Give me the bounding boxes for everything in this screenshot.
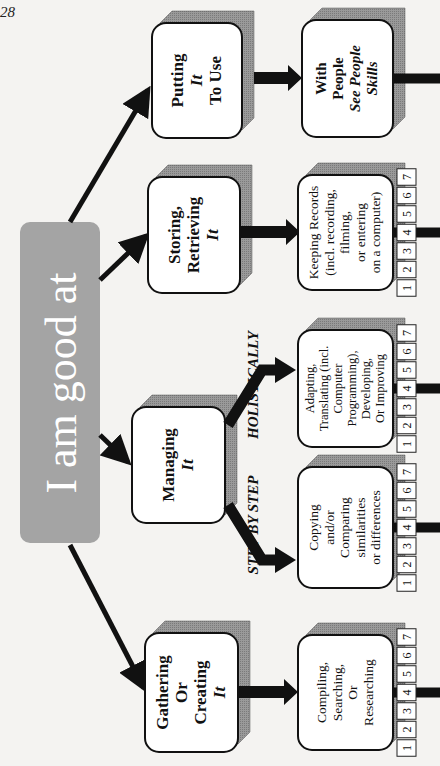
svg-text:It: It xyxy=(210,686,229,700)
arrow-putting-to-people xyxy=(254,65,302,91)
svg-text:Programming),: Programming), xyxy=(345,350,359,426)
svg-text:4: 4 xyxy=(400,230,414,236)
arrow-to-managing xyxy=(100,435,128,462)
rating-cell-4[interactable]: 4 xyxy=(397,224,416,241)
arrow-to-putting xyxy=(70,90,148,222)
svg-text:and/or: and/or xyxy=(322,510,337,545)
rating-cell-3[interactable]: 3 xyxy=(397,243,416,260)
category-box-gathering: GatheringOrCreatingIt xyxy=(145,621,250,752)
rating-cell-5[interactable]: 5 xyxy=(397,362,416,379)
category-box-storing: Storing,RetrievingIt xyxy=(148,165,252,293)
svg-text:4: 4 xyxy=(400,386,414,392)
rating-cell-5[interactable]: 5 xyxy=(397,666,416,683)
arrow-to-gathering xyxy=(70,545,144,688)
svg-text:6: 6 xyxy=(400,193,414,199)
skill-box-adapting: Adapting,Translating (incl.ComputerProgr… xyxy=(298,318,440,447)
svg-text:6: 6 xyxy=(400,653,414,659)
svg-text:1: 1 xyxy=(400,441,414,447)
svg-text:Putting: Putting xyxy=(168,53,187,107)
svg-text:Gathering: Gathering xyxy=(153,655,172,730)
svg-text:similarities: similarities xyxy=(353,498,368,558)
svg-text:Copying: Copying xyxy=(306,504,321,551)
svg-text:I am good at: I am good at xyxy=(37,272,86,493)
skill-box-copying: Copyingand/orComparingsimilaritiesor dif… xyxy=(298,455,440,588)
rating-cell-7[interactable]: 7 xyxy=(397,629,416,646)
rating-cell-6[interactable]: 6 xyxy=(397,647,416,664)
svg-text:Compiling,: Compiling, xyxy=(314,662,329,723)
svg-text:2: 2 xyxy=(400,562,414,568)
svg-text:Comparing: Comparing xyxy=(337,497,352,558)
rating-cell-3[interactable]: 3 xyxy=(397,703,416,720)
svg-text:Or: Or xyxy=(172,682,191,703)
category-box-putting: PuttingItTo Use xyxy=(152,11,254,138)
central-box: I am good at xyxy=(20,222,100,543)
rating-cell-7[interactable]: 7 xyxy=(397,464,416,481)
svg-text:3: 3 xyxy=(400,708,414,714)
rating-cell-1[interactable]: 1 xyxy=(397,280,416,297)
rating-scale-keeping[interactable]: 1234567 xyxy=(397,169,416,297)
svg-text:Creating: Creating xyxy=(191,660,210,724)
svg-text:Storing,: Storing, xyxy=(165,206,184,264)
svg-text:6: 6 xyxy=(400,349,414,355)
svg-text:Or: Or xyxy=(345,685,360,700)
svg-text:It: It xyxy=(203,228,222,242)
rating-cell-1[interactable]: 1 xyxy=(397,436,416,453)
rating-cell-4[interactable]: 4 xyxy=(397,519,416,536)
rating-cell-1[interactable]: 1 xyxy=(397,740,416,757)
svg-text:Computer: Computer xyxy=(331,363,345,414)
svg-text:4: 4 xyxy=(400,690,414,696)
rating-cell-2[interactable]: 2 xyxy=(397,556,416,573)
rating-cell-5[interactable]: 5 xyxy=(397,206,416,223)
rating-cell-7[interactable]: 7 xyxy=(397,169,416,186)
rating-scale-adapting[interactable]: 1234567 xyxy=(397,325,416,453)
rating-cell-6[interactable]: 6 xyxy=(397,343,416,360)
svg-text:or entering: or entering xyxy=(353,203,368,262)
rating-cell-2[interactable]: 2 xyxy=(397,417,416,434)
svg-text:Managing: Managing xyxy=(159,428,178,502)
rating-cell-4[interactable]: 4 xyxy=(397,380,416,397)
svg-text:or differences: or differences xyxy=(368,490,383,564)
rating-cell-2[interactable]: 2 xyxy=(397,721,416,738)
svg-text:5: 5 xyxy=(400,211,414,217)
svg-text:7: 7 xyxy=(400,469,414,475)
svg-text:People: People xyxy=(330,57,346,100)
svg-text:5: 5 xyxy=(400,506,414,512)
rating-cell-3[interactable]: 3 xyxy=(397,538,416,555)
rating-scale-copying[interactable]: 1234567 xyxy=(397,464,416,592)
svg-text:Retrieving: Retrieving xyxy=(184,196,203,273)
svg-text:filming,: filming, xyxy=(337,211,352,254)
rating-cell-6[interactable]: 6 xyxy=(397,187,416,204)
rating-cell-4[interactable]: 4 xyxy=(397,684,416,701)
svg-text:Skills: Skills xyxy=(364,61,380,95)
svg-text:1: 1 xyxy=(400,580,414,586)
arrow-to-storing xyxy=(100,236,146,280)
svg-text:It: It xyxy=(187,74,206,88)
svg-text:Translating (incl.: Translating (incl. xyxy=(317,346,331,432)
svg-text:3: 3 xyxy=(400,248,414,254)
svg-text:4: 4 xyxy=(400,525,414,531)
skill-box-keeping: Keeping Records(incl. recording,filming,… xyxy=(298,163,440,290)
svg-text:3: 3 xyxy=(400,543,414,549)
rating-cell-3[interactable]: 3 xyxy=(397,399,416,416)
skill-box-people: WithPeopleSee PeopleSkills xyxy=(302,8,440,137)
rating-cell-7[interactable]: 7 xyxy=(397,325,416,342)
svg-text:It: It xyxy=(178,458,197,472)
svg-text:Or Improving: Or Improving xyxy=(373,353,387,423)
svg-text:See People: See People xyxy=(347,45,363,112)
svg-text:1: 1 xyxy=(400,285,414,291)
svg-text:(incl. recording,: (incl. recording, xyxy=(322,189,337,276)
svg-text:Developing,: Developing, xyxy=(359,358,373,419)
skill-box-compiling: Compiling,Searching,OrResearching xyxy=(298,623,440,750)
svg-text:With: With xyxy=(313,62,329,95)
svg-text:2: 2 xyxy=(400,727,414,733)
rating-cell-1[interactable]: 1 xyxy=(397,575,416,592)
svg-text:Searching,: Searching, xyxy=(330,664,345,721)
rating-cell-5[interactable]: 5 xyxy=(397,501,416,518)
svg-text:To Use: To Use xyxy=(206,56,225,105)
rating-scale-compiling[interactable]: 1234567 xyxy=(397,629,416,757)
svg-text:Keeping Records: Keeping Records xyxy=(306,186,321,279)
svg-text:2: 2 xyxy=(400,267,414,273)
rating-cell-2[interactable]: 2 xyxy=(397,261,416,278)
rating-cell-6[interactable]: 6 xyxy=(397,482,416,499)
svg-text:1: 1 xyxy=(400,745,414,751)
